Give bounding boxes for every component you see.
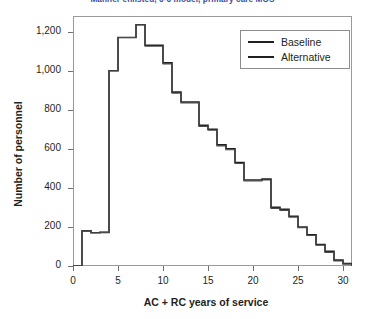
x-tick-label: 5 [103,275,133,286]
x-tick-mark [73,266,74,271]
y-tick-mark [68,266,73,267]
chart-figure: Manner enlisted, 6-6 model, primary care… [0,0,365,319]
x-tick-label: 30 [328,275,358,286]
legend-label: Alternative [281,51,331,63]
y-tick-label: 1,200 [15,25,61,36]
x-tick-label: 0 [58,275,88,286]
x-tick-label: 15 [193,275,223,286]
y-axis-title: Number of personnel [12,74,24,234]
x-tick-mark [163,266,164,271]
legend-line-icon [248,56,274,58]
legend-label: Baseline [281,36,321,48]
y-tick-label: 0 [15,259,61,270]
x-tick-label: 10 [148,275,178,286]
x-tick-mark [298,266,299,271]
legend-item-alternative[interactable]: Alternative [241,49,349,64]
x-tick-mark [253,266,254,271]
x-tick-label: 20 [238,275,268,286]
x-tick-mark [343,266,344,271]
x-tick-mark [118,266,119,271]
x-tick-label: 25 [283,275,313,286]
chart-title: Manner enlisted, 6-6 model, primary care… [0,0,365,4]
x-axis-title: AC + RC years of service [60,296,352,308]
legend-line-icon [248,41,274,43]
x-tick-mark [208,266,209,271]
legend-item-baseline[interactable]: Baseline [241,34,349,49]
chart-legend: Baseline Alternative [240,30,350,69]
